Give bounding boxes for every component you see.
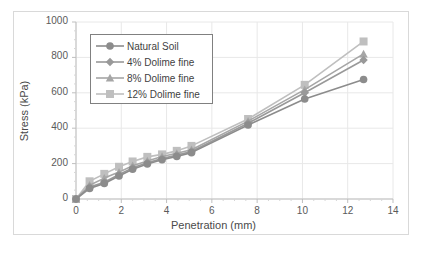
legend-item-label: 8% Dolime fine <box>125 73 194 84</box>
y-tick-label: 400 <box>28 121 68 132</box>
data-marker-circle <box>173 153 181 161</box>
x-tick-label: 0 <box>61 205 91 216</box>
data-marker-circle <box>129 165 137 173</box>
legend-marker-triangle-icon <box>95 71 125 85</box>
y-tick-label: 0 <box>28 192 68 203</box>
legend-item[interactable]: 4% Dolime fine <box>95 54 208 70</box>
data-marker-square <box>106 90 114 98</box>
y-tick-label: 800 <box>28 50 68 61</box>
legend-item[interactable]: Natural Soil <box>95 38 208 54</box>
y-tick-label: 600 <box>28 86 68 97</box>
legend-item-label: 4% Dolime fine <box>125 57 194 68</box>
data-marker-circle <box>188 149 196 157</box>
chart-legend: Natural Soil4% Dolime fine8% Dolime fine… <box>90 34 213 104</box>
data-marker-circle <box>101 180 109 188</box>
data-marker-circle <box>301 95 309 103</box>
x-tick-label: 14 <box>378 205 408 216</box>
legend-marker-circle-icon <box>95 39 125 53</box>
legend-item-label: Natural Soil <box>125 41 179 52</box>
x-tick-label: 4 <box>152 205 182 216</box>
legend-item[interactable]: 12% Dolime fine <box>95 86 208 102</box>
x-tick-label: 10 <box>287 205 317 216</box>
y-tick-label: 200 <box>28 157 68 168</box>
x-axis-title: Penetration (mm) <box>0 219 427 231</box>
x-tick-label: 8 <box>242 205 272 216</box>
legend-item-label: 12% Dolime fine <box>125 89 200 100</box>
x-tick-label: 6 <box>197 205 227 216</box>
data-marker-circle <box>106 42 114 50</box>
data-marker-circle <box>72 195 80 203</box>
data-marker-circle <box>144 160 152 168</box>
data-marker-circle <box>115 172 123 180</box>
legend-marker-square-icon <box>95 87 125 101</box>
x-tick-label: 2 <box>106 205 136 216</box>
data-marker-circle <box>158 156 166 164</box>
data-marker-diamond <box>106 58 114 66</box>
data-marker-circle <box>244 121 252 129</box>
chart-figure: Stress (kPa) Penetration (mm) 0200400600… <box>0 0 427 260</box>
x-tick-label: 12 <box>333 205 363 216</box>
data-marker-circle <box>360 76 368 84</box>
data-marker-circle <box>86 185 94 193</box>
legend-item[interactable]: 8% Dolime fine <box>95 70 208 86</box>
data-marker-square <box>360 37 368 45</box>
legend-marker-diamond-icon <box>95 55 125 69</box>
y-tick-label: 1000 <box>28 15 68 26</box>
